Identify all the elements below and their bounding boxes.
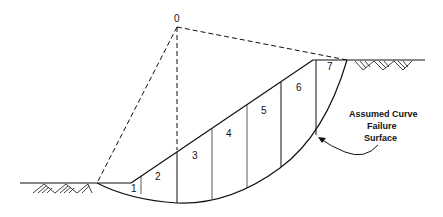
annotation-line-2: Failure xyxy=(367,121,397,131)
annotation-line-1: Assumed Curve xyxy=(349,109,418,119)
slice-label-2: 2 xyxy=(155,171,161,182)
slice-label-6: 6 xyxy=(296,82,302,93)
slice-label-4: 4 xyxy=(226,128,232,139)
slice-label-7: 7 xyxy=(327,61,333,72)
radius-lines xyxy=(97,27,347,183)
center-label: 0 xyxy=(174,13,180,24)
slope-diagram: 0 1 2 3 4 5 6 7 Assumed Curve Failure Su… xyxy=(0,0,443,217)
ground-hatch-right xyxy=(355,61,412,70)
annotation-line-3: Surface xyxy=(364,133,397,143)
slice-label-3: 3 xyxy=(192,150,198,161)
slice-label-1: 1 xyxy=(131,183,137,194)
slope-face xyxy=(131,60,313,183)
failure-surface-arc xyxy=(97,60,347,203)
slice-label-5: 5 xyxy=(261,105,267,116)
ground-hatch-left xyxy=(33,184,92,193)
